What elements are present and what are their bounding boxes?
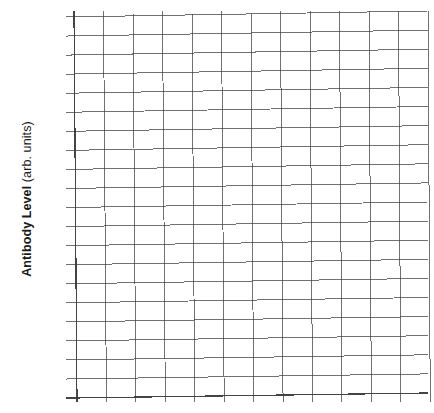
- y-axis-title-units: (arb. units): [20, 121, 34, 182]
- figure-panel: Antibody Level (arb. units): [0, 0, 434, 413]
- plot-area: [66, 6, 434, 406]
- y-axis-title-bold: Antibody Level: [20, 186, 34, 277]
- plot-grid: [66, 6, 434, 406]
- y-axis-title: Antibody Level (arb. units): [16, 99, 38, 299]
- grid-lines: [66, 11, 430, 402]
